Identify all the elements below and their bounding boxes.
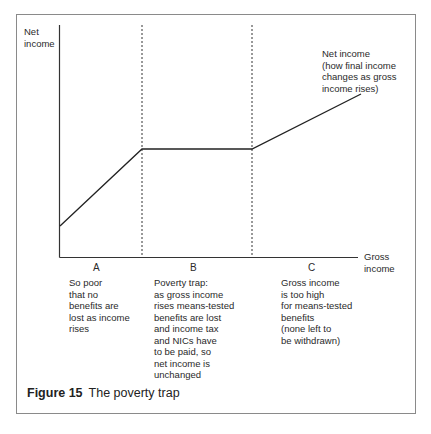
x-axis-label: Gross income — [364, 251, 395, 274]
region-a-letter: A — [93, 262, 100, 273]
figure-title: The poverty trap — [89, 386, 180, 400]
line-annotation: Net income (how final income changes as … — [322, 48, 396, 94]
region-c-letter: C — [308, 262, 315, 273]
figure-number: Figure 15 — [27, 386, 83, 400]
y-axis-label: Net income — [24, 26, 55, 49]
region-c-description: Gross income is too high for means-teste… — [281, 277, 352, 346]
region-a-description: So poor that no benefits are lost as inc… — [69, 277, 130, 335]
region-b-letter: B — [190, 262, 197, 273]
net-income-line — [60, 94, 361, 226]
region-b-description: Poverty trap: as gross income rises mean… — [154, 277, 234, 381]
figure-caption: Figure 15The poverty trap — [27, 386, 180, 400]
